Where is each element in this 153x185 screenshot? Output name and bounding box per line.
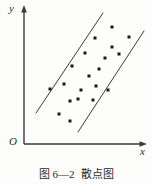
plot-svg bbox=[0, 0, 153, 163]
scatter-point bbox=[49, 88, 52, 91]
scatter-point bbox=[71, 65, 74, 68]
figure-container: y x O 图 6—2散点图 bbox=[0, 0, 153, 185]
scatter-point bbox=[98, 68, 101, 71]
figure-caption-number: 图 6—2 bbox=[39, 168, 75, 180]
scatter-point bbox=[118, 53, 121, 56]
scatter-point bbox=[107, 89, 110, 92]
scatter-point bbox=[128, 36, 131, 39]
axes-group bbox=[21, 5, 147, 147]
figure-caption: 图 6—2散点图 bbox=[0, 165, 153, 181]
y-axis-label: y bbox=[9, 3, 14, 14]
scatter-point bbox=[69, 120, 72, 123]
scatter-point bbox=[77, 98, 80, 101]
origin-label: O bbox=[9, 136, 17, 147]
scatter-point bbox=[69, 100, 72, 103]
scatter-point bbox=[111, 46, 114, 49]
scatter-point bbox=[104, 57, 107, 60]
scatter-point bbox=[92, 99, 95, 102]
scatter-point bbox=[94, 37, 97, 40]
scatter-point bbox=[80, 89, 83, 92]
y-axis-arrowhead bbox=[21, 5, 27, 13]
x-axis-label: x bbox=[140, 146, 145, 157]
scatter-points-group bbox=[49, 26, 131, 123]
scatter-point bbox=[63, 83, 66, 86]
upper-left-boundary bbox=[36, 13, 103, 113]
figure-caption-title: 散点图 bbox=[81, 168, 114, 180]
scatter-point bbox=[88, 75, 91, 78]
scatter-point bbox=[84, 52, 87, 55]
scatter-point bbox=[58, 113, 61, 116]
scatter-point bbox=[111, 26, 114, 29]
boundary-lines-group bbox=[36, 13, 144, 132]
scatter-point bbox=[95, 85, 98, 88]
scatter-plot-area: y x O bbox=[0, 0, 153, 163]
